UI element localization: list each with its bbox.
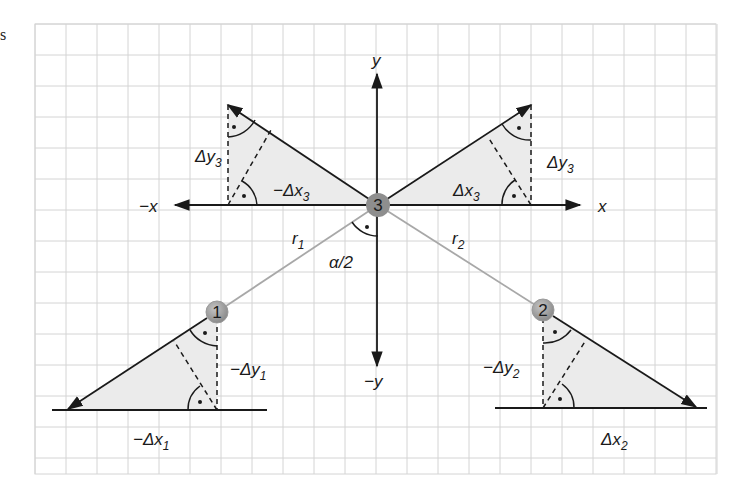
label-delta-y3-right: Δy3	[546, 153, 574, 176]
svg-text:3: 3	[373, 196, 382, 215]
label-neg-delta-y2: −Δy2	[483, 358, 520, 381]
svg-text:−Δy1: −Δy1	[230, 360, 267, 383]
radius-line-r1	[217, 205, 378, 312]
triangle-lower-right	[495, 310, 707, 408]
label-r1: r1	[292, 229, 304, 252]
radius-line-r2	[378, 205, 543, 310]
alpha-half-angle-marker	[352, 222, 378, 236]
node-3: 3	[366, 193, 390, 217]
node-2: 2	[532, 299, 554, 321]
diagram-canvas: s	[0, 0, 749, 495]
label-alpha-half: α/2	[329, 253, 353, 272]
label-neg-delta-y1: −Δy1	[230, 360, 267, 383]
neg-x-axis-label: −x	[139, 197, 158, 216]
svg-text:1: 1	[212, 303, 221, 322]
svg-text:Δy3: Δy3	[546, 153, 574, 176]
label-delta-y3-left: Δy3	[194, 147, 222, 170]
neg-y-axis-label: −y	[364, 372, 384, 391]
label-r2: r2	[452, 229, 465, 252]
x-axis-label: x	[597, 197, 607, 216]
label-neg-delta-x1: −Δx1	[133, 430, 170, 453]
svg-text:−Δy2: −Δy2	[483, 358, 520, 381]
y-axis-label: y	[371, 51, 382, 70]
node-1: 1	[206, 301, 228, 323]
svg-text:r1: r1	[292, 229, 304, 252]
svg-text:2: 2	[538, 301, 547, 320]
svg-text:r2: r2	[452, 229, 465, 252]
svg-text:Δy3: Δy3	[194, 147, 222, 170]
svg-text:−Δx1: −Δx1	[133, 430, 170, 453]
